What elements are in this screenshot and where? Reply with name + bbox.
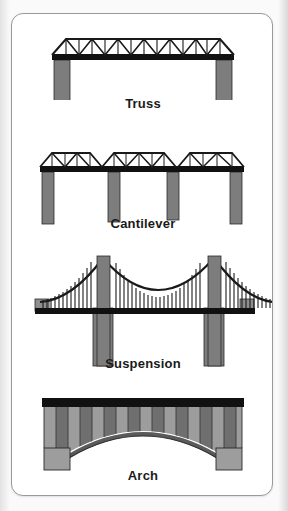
panel-label-suspension: Suspension <box>12 356 273 371</box>
panel-label-truss: Truss <box>12 96 273 111</box>
panel-arch: Arch <box>12 386 273 496</box>
panel-label-arch: Arch <box>12 468 273 483</box>
truss-bridge-icon <box>12 20 273 100</box>
diagram-page: Truss <box>0 0 288 511</box>
panel-truss: Truss <box>12 20 273 132</box>
suspension-bridge-icon <box>12 244 273 374</box>
panel-suspension: Suspension <box>12 244 273 384</box>
bridge-types-card: Truss <box>11 13 273 496</box>
panel-cantilever: Cantilever <box>12 132 273 244</box>
panel-label-cantilever: Cantilever <box>12 216 273 231</box>
